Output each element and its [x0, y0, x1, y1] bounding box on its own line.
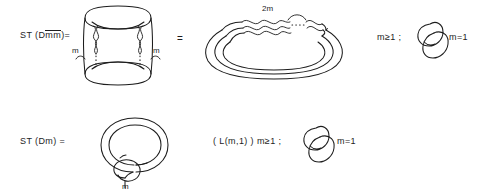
coiled-spiral-knot-diagram: [96, 112, 176, 192]
left-twist-strand-b: [95, 26, 98, 54]
twisted-band-loop-diagram: [200, 8, 348, 82]
top-left-label-mbar-1: m: [45, 30, 53, 40]
top-left-label-prefix: ST (D: [20, 30, 45, 40]
top-row-equals-sign: =: [177, 33, 183, 44]
band-twist-strand-b: [243, 26, 290, 29]
top-left-equation-label: ST (Dmm)=: [20, 30, 70, 40]
band-inner-lower: [215, 36, 333, 74]
spiral-second-turn: [109, 125, 161, 165]
band-top-left-arc-inner: [226, 28, 243, 36]
top-outer-loop: [85, 6, 151, 29]
band-twist-strand-a: [242, 20, 290, 23]
band-outer-lower: [206, 30, 343, 79]
top-left-label-suffix: )=: [61, 30, 70, 40]
top-left-label-mbar-2: m: [53, 30, 61, 40]
bottom-outer-loop: [85, 62, 151, 85]
spiral-outer-turn: [101, 118, 168, 172]
band-top-right-arc-inner: [322, 30, 325, 36]
hopf-ring-lower: [309, 136, 334, 162]
clasp-crossing-stub: [120, 155, 126, 158]
bottom-right-lens-space-label: ( L(m,1) ) m≥1 ;: [213, 136, 281, 146]
band-top-left-arc-inner-2: [230, 33, 244, 42]
band-twist-strand-right-a: [306, 20, 322, 25]
top-left-twist-label-right: m: [153, 46, 160, 55]
hopf-link-diagram-bottom: [296, 122, 342, 168]
band-twist-brace: [288, 15, 306, 20]
top-right-twist-count-label: 2m: [262, 4, 273, 13]
hopf-crossing-arc: [310, 146, 321, 149]
clasp-loop-outer: [114, 160, 140, 181]
band-inner-lower-2: [223, 42, 325, 70]
hopf-ring-lower-tail: [320, 136, 323, 137]
hopf-ring-lower: [423, 32, 448, 58]
left-body-outline: [84, 18, 86, 74]
bottom-left-coil-label: m: [122, 182, 129, 191]
top-condition-left: m≥1 ;: [377, 32, 401, 42]
top-left-twist-label-left: m: [72, 46, 79, 55]
spiral-outer-exit: [125, 172, 133, 178]
right-twist-strand-a: [137, 26, 140, 54]
top-condition-right: m=1: [449, 32, 468, 42]
twisted-double-torus-diagram: [72, 4, 164, 88]
figure-canvas: ST (Dmm)= m m =: [0, 0, 491, 196]
left-twist-strand-a: [93, 26, 96, 54]
right-twist-strand-b: [139, 26, 142, 54]
bottom-left-equation-label: ST (Dm) =: [20, 136, 65, 146]
band-twist-strand-right-b: [307, 26, 323, 31]
band-top-right-arc: [322, 24, 326, 30]
hopf-crossing-arc: [424, 42, 435, 45]
bottom-condition-right: m=1: [337, 136, 356, 146]
hopf-ring-lower-tail: [434, 32, 437, 33]
band-twist-strand-c: [244, 31, 291, 34]
